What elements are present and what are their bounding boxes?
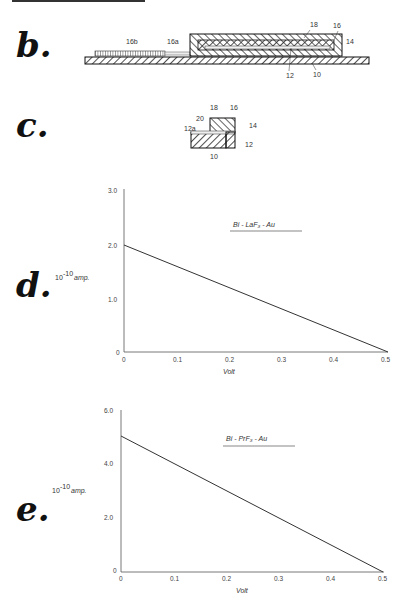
ytick-e-2: 2.0	[104, 514, 113, 521]
xtick-d-4: 0.4	[329, 356, 338, 363]
label-c-18: 18	[210, 104, 218, 111]
ytick-d-2: 2.0	[108, 242, 117, 249]
ylabel-d-unit: amp.	[74, 274, 90, 282]
xtick-e-2: 0.2	[222, 575, 231, 582]
ylabel-e-unit: amp.	[71, 487, 87, 495]
ytick-d-0: 0	[116, 349, 120, 356]
chart-title-d: Bi - LaF₃ - Au	[233, 221, 275, 228]
xlabel-e: Volt	[236, 587, 249, 594]
xtick-d-5: 0.5	[381, 356, 390, 363]
chart-d: 3.0 2.0 1.0 0 0 0.1 0.2 0.3 0.4 0.5 Volt…	[55, 187, 390, 375]
ytick-d-3: 3.0	[108, 187, 117, 194]
label-c-12a: 12a	[184, 125, 196, 132]
label-c-14: 14	[249, 122, 257, 129]
label-18: 18	[310, 21, 318, 28]
ytick-e-6: 6.0	[104, 407, 113, 414]
diagram-c: 18 16 20 12a 14 12 10	[184, 104, 257, 160]
label-c-20: 20	[196, 115, 204, 122]
xtick-d-3: 0.3	[277, 356, 286, 363]
diagram-b: 16b 16a 18 16 14 12 10	[85, 21, 369, 79]
label-12: 12	[286, 72, 294, 79]
ytick-d-1: 1.0	[108, 296, 117, 303]
chart-title-e: Bi - PrF₃ - Au	[226, 435, 267, 442]
label-c-10: 10	[210, 153, 218, 160]
xtick-e-1: 0.1	[170, 575, 179, 582]
xtick-d-1: 0.1	[173, 356, 182, 363]
ytick-e-4: 4.0	[104, 460, 113, 467]
ylabel-d-base: 10	[55, 274, 63, 281]
ylabel-e-exp: -10	[60, 483, 70, 490]
xtick-e-5: 0.5	[378, 575, 387, 582]
xlabel-d: Volt	[223, 368, 236, 375]
xtick-e-4: 0.4	[326, 575, 335, 582]
label-10: 10	[313, 71, 321, 78]
label-16b: 16b	[126, 38, 138, 45]
label-14: 14	[346, 38, 354, 45]
label-c-12: 12	[245, 141, 253, 148]
xtick-e-0: 0	[119, 575, 123, 582]
figure-canvas: 16b 16a 18 16 14 12 10 18 16 20 12a 14 1…	[0, 0, 409, 615]
xtick-d-0: 0	[122, 356, 126, 363]
ylabel-d-exp: -10	[63, 270, 73, 277]
label-16: 16	[333, 22, 341, 29]
chart-e: 6.0 4.0 2.0 0 0 0.1 0.2 0.3 0.4 0.5 Volt…	[52, 407, 387, 594]
ylabel-e-base: 10	[52, 487, 60, 494]
label-16a: 16a	[167, 38, 179, 45]
ytick-e-0: 0	[113, 567, 117, 574]
xtick-d-2: 0.2	[225, 356, 234, 363]
xtick-e-3: 0.3	[274, 575, 283, 582]
label-c-16: 16	[230, 104, 238, 111]
